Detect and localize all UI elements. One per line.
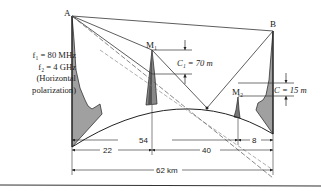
clearance-c2-label: C = 15 m	[274, 85, 307, 95]
distance-40-label: 40	[202, 146, 211, 155]
polarization-line-1: (Horizontal	[12, 73, 76, 85]
frequency-f1: f₁ = 80 MHz	[12, 50, 76, 62]
distance-54-label: 54	[139, 136, 148, 145]
terrain-hill-a	[72, 16, 102, 147]
bottom-rule	[0, 185, 321, 186]
distance-8-label: 8	[252, 136, 257, 145]
dashed-ray-2	[100, 50, 273, 170]
distance-22-label: 22	[103, 146, 112, 155]
reflection-point	[206, 107, 209, 110]
distance-total-label: 62 km	[156, 166, 178, 175]
parameters-block: f₁ = 80 MHz f₂ = 4 GHz (Horizontal polar…	[12, 50, 76, 96]
point-b-label: B	[270, 19, 276, 29]
terrain-hill-b	[256, 31, 273, 134]
obstacle-m2-label: M₂	[232, 87, 243, 97]
point-a-label: A	[64, 8, 71, 18]
frequency-f2: f₂ = 4 GHz	[12, 62, 76, 74]
obstacle-m2	[234, 97, 240, 118]
obstacle-m1-label: M₁	[146, 40, 157, 50]
clearance-c1-label: C₁ = 70 m	[177, 58, 213, 68]
earth-bulge-arc	[72, 109, 273, 147]
polarization-line-2: polarization)	[12, 85, 76, 97]
